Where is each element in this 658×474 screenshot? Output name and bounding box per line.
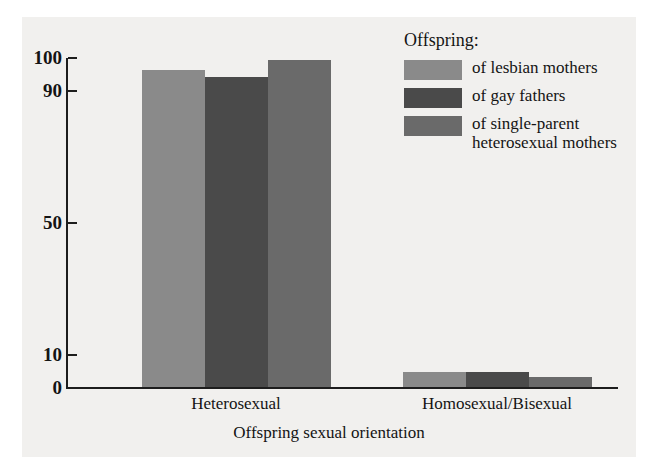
x-axis-title: Offspring sexual orientation	[22, 424, 636, 441]
x-axis-line	[66, 387, 618, 389]
page-bottom-margin	[0, 457, 658, 474]
legend-entry: of gay fathers	[404, 86, 636, 108]
legend-swatch	[404, 88, 462, 108]
legend-entry-label: of single-parent heterosexual mothers	[472, 114, 636, 153]
y-axis-tick-label: 10	[24, 345, 62, 364]
legend-entry-label: of gay fathers	[472, 86, 565, 106]
chart-legend: Offspring: of lesbian mothersof gay fath…	[404, 31, 636, 159]
y-axis-tick	[68, 90, 77, 92]
y-axis-tick	[68, 387, 77, 389]
bar	[142, 70, 205, 387]
y-axis-tick-label: 0	[24, 378, 62, 397]
legend-entry-label: of lesbian mothers	[472, 58, 598, 78]
y-axis-tick	[68, 57, 77, 59]
legend-title: Offspring:	[404, 31, 636, 51]
x-axis-category-label: Homosexual/Bisexual	[357, 395, 637, 412]
y-axis-tick-label: 50	[24, 213, 62, 232]
y-axis-tick-label: 100	[24, 48, 62, 67]
bar	[268, 60, 331, 387]
legend-entries: of lesbian mothersof gay fathersof singl…	[404, 58, 636, 153]
legend-entry: of single-parent heterosexual mothers	[404, 114, 636, 153]
y-axis-tick	[68, 222, 77, 224]
legend-swatch	[404, 60, 462, 80]
chart-figure: 0105090100 HeterosexualHomosexual/Bisexu…	[22, 17, 636, 457]
x-axis-category-label: Heterosexual	[96, 395, 376, 412]
bar	[205, 77, 268, 387]
y-axis-tick-label: 90	[24, 81, 62, 100]
y-axis-tick-labels: 0105090100	[22, 17, 62, 457]
bar	[403, 372, 466, 387]
bar	[529, 377, 592, 387]
bar	[466, 372, 529, 387]
y-axis-tick	[68, 354, 77, 356]
legend-entry: of lesbian mothers	[404, 58, 636, 80]
legend-swatch	[404, 116, 462, 136]
